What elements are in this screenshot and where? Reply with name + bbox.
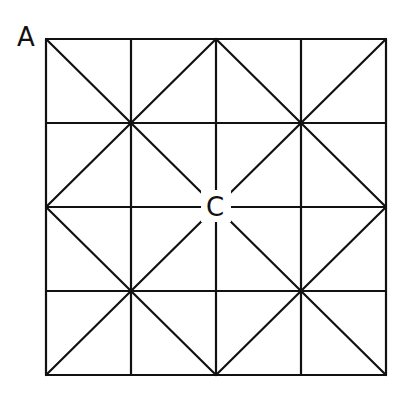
corner-label-a: A [17, 22, 35, 52]
center-label-c: C [206, 192, 224, 222]
grid-diagram: A C [0, 0, 407, 399]
